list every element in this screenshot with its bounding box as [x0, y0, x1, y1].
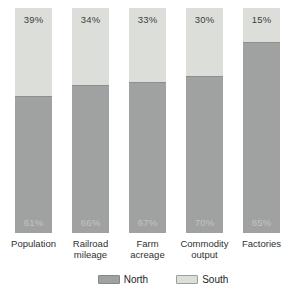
south-percent-label: 15%: [243, 14, 280, 25]
south-percent-label: 34%: [72, 14, 109, 25]
bar: 15% 85%: [243, 8, 280, 233]
bar-segment-south: 39%: [15, 8, 52, 96]
bar-column: 39% 61% Population: [5, 8, 62, 265]
south-swatch-icon: [176, 275, 198, 284]
south-percent-label: 33%: [129, 14, 166, 25]
bar-segment-south: 15%: [243, 8, 280, 42]
north-percent-label: 67%: [129, 217, 166, 228]
south-percent-label: 39%: [15, 14, 52, 25]
bar-segment-north: 67%: [129, 82, 166, 233]
legend-label-south: South: [202, 274, 228, 285]
bar-segment-north: 85%: [243, 42, 280, 233]
north-percent-label: 70%: [186, 217, 223, 228]
north-percent-label: 85%: [243, 217, 280, 228]
category-label: Farm acreage: [119, 238, 176, 265]
stacked-bar-chart: 39% 61% Population 34% 66% Railroad mile…: [0, 0, 294, 289]
category-label: Railroad mileage: [62, 238, 119, 265]
bar-segment-south: 30%: [186, 8, 223, 76]
north-percent-label: 66%: [72, 217, 109, 228]
bars-area: 39% 61% Population 34% 66% Railroad mile…: [0, 8, 294, 265]
bar-segment-south: 33%: [129, 8, 166, 82]
north-percent-label: 61%: [15, 217, 52, 228]
legend-item-south: South: [176, 274, 228, 285]
bar: 33% 67%: [129, 8, 166, 233]
legend: North South: [0, 274, 294, 285]
bar-column: 34% 66% Railroad mileage: [62, 8, 119, 265]
legend-item-north: North: [98, 274, 148, 285]
bar-column: 33% 67% Farm acreage: [119, 8, 176, 265]
bar-column: 15% 85% Factories: [233, 8, 290, 265]
category-label: Population: [5, 238, 62, 265]
bar: 30% 70%: [186, 8, 223, 233]
south-percent-label: 30%: [186, 14, 223, 25]
bar-segment-north: 66%: [72, 85, 109, 234]
category-label: Factories: [233, 238, 290, 265]
north-swatch-icon: [98, 275, 120, 284]
bar-segment-south: 34%: [72, 8, 109, 85]
bar: 34% 66%: [72, 8, 109, 233]
bar: 39% 61%: [15, 8, 52, 233]
bar-column: 30% 70% Commodity output: [176, 8, 233, 265]
category-label: Commodity output: [176, 238, 233, 265]
bar-segment-north: 70%: [186, 76, 223, 234]
legend-label-north: North: [124, 274, 148, 285]
bar-segment-north: 61%: [15, 96, 52, 233]
